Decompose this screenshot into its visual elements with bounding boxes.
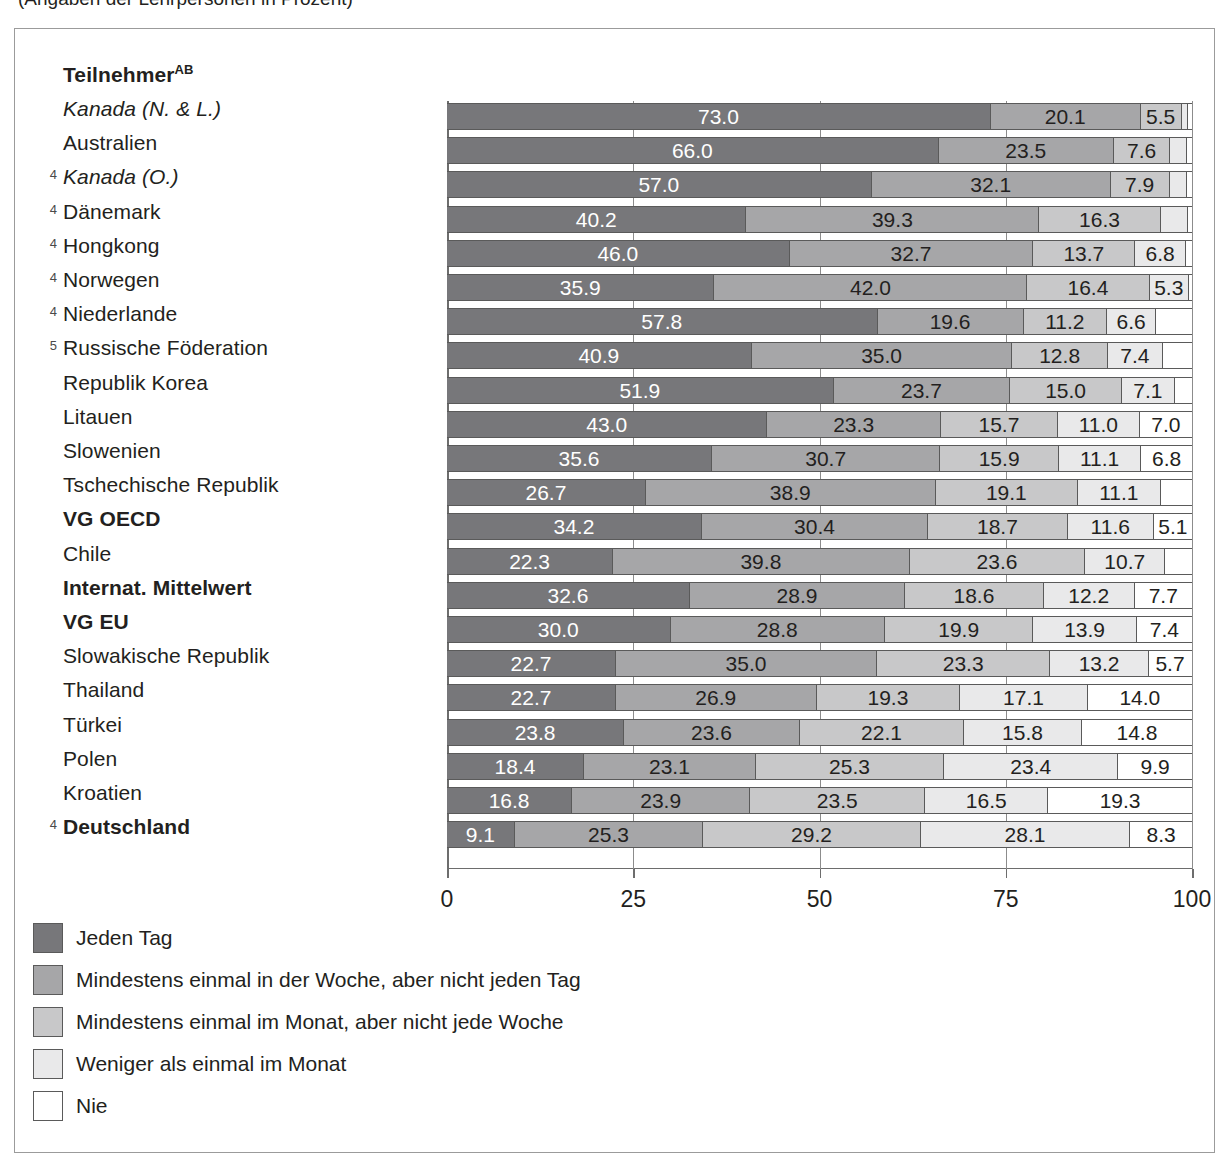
bar-row[interactable]: 22.735.023.313.25.7 xyxy=(447,650,1192,677)
bar-segment[interactable]: 18.6 xyxy=(905,583,1044,608)
bar-segment[interactable]: 15.8 xyxy=(964,720,1082,745)
bar-segment[interactable] xyxy=(1188,104,1192,129)
bar-segment[interactable]: 22.7 xyxy=(447,651,616,676)
bar-row[interactable]: 34.230.418.711.65.1 xyxy=(447,513,1192,540)
bar-row[interactable]: 30.028.819.913.97.4 xyxy=(447,616,1192,643)
bar-row[interactable]: 46.032.713.76.8 xyxy=(447,240,1192,267)
bar-segment[interactable]: 66.0 xyxy=(447,138,939,163)
bar-row[interactable]: 22.339.823.610.7 xyxy=(447,548,1192,575)
bar-segment[interactable] xyxy=(1170,172,1187,197)
bar-segment[interactable]: 19.3 xyxy=(817,685,961,710)
bar-segment[interactable]: 13.9 xyxy=(1033,617,1137,642)
bar-segment[interactable]: 11.1 xyxy=(1059,446,1142,471)
bar-segment[interactable]: 16.5 xyxy=(925,788,1048,813)
legend-item[interactable]: Jeden Tag xyxy=(33,917,1133,959)
bar-segment[interactable]: 51.9 xyxy=(447,378,834,403)
bar-segment[interactable]: 42.0 xyxy=(714,275,1027,300)
bar-segment[interactable] xyxy=(1165,549,1192,574)
bar-segment[interactable]: 35.9 xyxy=(447,275,714,300)
bar-row[interactable]: 40.935.012.87.4 xyxy=(447,342,1192,369)
bar-segment[interactable]: 46.0 xyxy=(447,241,790,266)
bar-segment[interactable]: 18.4 xyxy=(447,754,584,779)
bar-segment[interactable] xyxy=(1186,241,1192,266)
bar-row[interactable]: 66.023.57.6 xyxy=(447,137,1192,164)
bar-segment[interactable]: 16.4 xyxy=(1027,275,1149,300)
bar-segment[interactable] xyxy=(1187,172,1192,197)
bar-segment[interactable]: 10.7 xyxy=(1085,549,1165,574)
bar-segment[interactable]: 18.7 xyxy=(928,514,1067,539)
bar-row[interactable]: 16.823.923.516.519.3 xyxy=(447,787,1192,814)
bar-row[interactable]: 26.738.919.111.1 xyxy=(447,479,1192,506)
bar-segment[interactable]: 23.4 xyxy=(944,754,1118,779)
bar-segment[interactable]: 26.7 xyxy=(447,480,646,505)
bar-segment[interactable]: 6.8 xyxy=(1141,446,1192,471)
bar-segment[interactable]: 22.3 xyxy=(447,549,613,574)
legend-item[interactable]: Mindestens einmal in der Woche, aber nic… xyxy=(33,959,1133,1001)
bar-segment[interactable]: 5.7 xyxy=(1149,651,1191,676)
bar-segment[interactable]: 6.8 xyxy=(1135,241,1186,266)
bar-segment[interactable]: 23.5 xyxy=(750,788,925,813)
bar-segment[interactable]: 35.0 xyxy=(752,343,1013,368)
bar-segment[interactable]: 38.9 xyxy=(646,480,936,505)
bar-segment[interactable]: 9.1 xyxy=(447,822,515,847)
bar-segment[interactable]: 39.3 xyxy=(746,207,1039,232)
bar-segment[interactable]: 19.1 xyxy=(936,480,1078,505)
bar-row[interactable]: 18.423.125.323.49.9 xyxy=(447,753,1192,780)
bar-segment[interactable]: 73.0 xyxy=(447,104,991,129)
bar-row[interactable]: 9.125.329.228.18.3 xyxy=(447,821,1192,848)
bar-row[interactable]: 51.923.715.07.1 xyxy=(447,377,1192,404)
bar-segment[interactable]: 23.1 xyxy=(584,754,756,779)
bar-segment[interactable]: 12.2 xyxy=(1044,583,1135,608)
bar-segment[interactable]: 7.4 xyxy=(1137,617,1192,642)
bar-segment[interactable]: 7.7 xyxy=(1135,583,1192,608)
bar-segment[interactable]: 11.0 xyxy=(1058,412,1140,437)
legend-item[interactable]: Mindestens einmal im Monat, aber nicht j… xyxy=(33,1001,1133,1043)
bar-row[interactable]: 23.823.622.115.814.8 xyxy=(447,719,1192,746)
bar-segment[interactable] xyxy=(1161,480,1192,505)
bar-row[interactable]: 40.239.316.3 xyxy=(447,206,1192,233)
bar-segment[interactable]: 23.3 xyxy=(767,412,941,437)
bar-segment[interactable]: 7.9 xyxy=(1111,172,1170,197)
bar-segment[interactable]: 30.0 xyxy=(447,617,671,642)
bar-segment[interactable]: 15.0 xyxy=(1010,378,1122,403)
bar-segment[interactable] xyxy=(1156,309,1192,334)
legend-item[interactable]: Weniger als einmal im Monat xyxy=(33,1043,1133,1085)
bar-segment[interactable]: 23.3 xyxy=(877,651,1051,676)
bar-segment[interactable] xyxy=(1188,207,1192,232)
bar-segment[interactable]: 11.2 xyxy=(1024,309,1107,334)
bar-segment[interactable]: 14.8 xyxy=(1082,720,1192,745)
legend-item[interactable]: Nie xyxy=(33,1085,1133,1127)
bar-row[interactable]: 43.023.315.711.07.0 xyxy=(447,411,1192,438)
bar-segment[interactable]: 5.3 xyxy=(1150,275,1189,300)
bar-segment[interactable] xyxy=(1189,275,1192,300)
bar-segment[interactable]: 13.2 xyxy=(1050,651,1148,676)
bar-segment[interactable]: 11.1 xyxy=(1078,480,1161,505)
bar-segment[interactable]: 23.6 xyxy=(910,549,1086,574)
bar-segment[interactable]: 7.0 xyxy=(1140,412,1192,437)
bar-segment[interactable]: 30.7 xyxy=(712,446,940,471)
bar-segment[interactable]: 23.7 xyxy=(834,378,1011,403)
bar-segment[interactable]: 28.8 xyxy=(671,617,886,642)
bar-row[interactable]: 57.819.611.26.6 xyxy=(447,308,1192,335)
bar-segment[interactable]: 57.8 xyxy=(447,309,878,334)
bar-segment[interactable]: 17.1 xyxy=(960,685,1087,710)
bar-segment[interactable]: 16.3 xyxy=(1039,207,1160,232)
bar-segment[interactable]: 22.7 xyxy=(447,685,616,710)
bar-segment[interactable]: 19.6 xyxy=(878,309,1024,334)
bar-segment[interactable]: 28.9 xyxy=(690,583,905,608)
bar-segment[interactable]: 5.5 xyxy=(1141,104,1182,129)
bar-row[interactable]: 22.726.919.317.114.0 xyxy=(447,684,1192,711)
bar-segment[interactable]: 40.9 xyxy=(447,343,752,368)
bar-segment[interactable]: 35.6 xyxy=(447,446,712,471)
bar-segment[interactable]: 28.1 xyxy=(921,822,1130,847)
bar-segment[interactable]: 34.2 xyxy=(447,514,702,539)
bar-segment[interactable] xyxy=(1161,207,1189,232)
bar-segment[interactable]: 19.3 xyxy=(1048,788,1192,813)
bar-segment[interactable]: 16.8 xyxy=(447,788,572,813)
bar-segment[interactable]: 32.7 xyxy=(790,241,1034,266)
bar-segment[interactable]: 35.0 xyxy=(616,651,877,676)
bar-row[interactable]: 32.628.918.612.27.7 xyxy=(447,582,1192,609)
bar-segment[interactable] xyxy=(1170,138,1186,163)
bar-segment[interactable] xyxy=(1182,104,1189,129)
bar-segment[interactable]: 23.6 xyxy=(624,720,800,745)
